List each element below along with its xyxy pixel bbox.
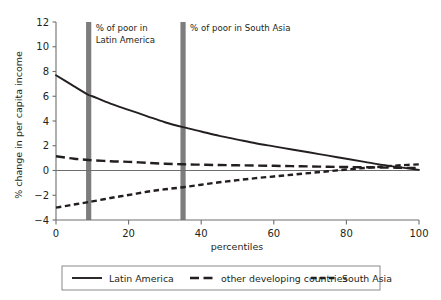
- marker-annotation-0-line-1: Latin America: [96, 35, 155, 45]
- y-axis-label: % change in per capita income: [13, 51, 24, 199]
- vertical-marker-bar-1: [180, 22, 185, 220]
- vertical-marker-bar-0: [86, 22, 91, 220]
- chart-figure: −4−2024681012020406080100% of poor inLat…: [0, 0, 441, 300]
- y-tick-label-6: 8: [43, 66, 49, 77]
- y-tick-label-1: −2: [34, 190, 49, 201]
- y-tick-label-5: 6: [43, 91, 49, 102]
- x-tick-label-0: 0: [53, 228, 59, 239]
- line-chart: −4−2024681012020406080100% of poor inLat…: [0, 0, 441, 300]
- y-tick-label-0: −4: [34, 215, 49, 226]
- x-tick-label-1: 20: [122, 228, 135, 239]
- chart-background: [0, 0, 441, 300]
- marker-annotation-1-line-0: % of poor in South Asia: [190, 23, 290, 33]
- x-axis-label: percentiles: [211, 241, 264, 252]
- y-tick-label-3: 2: [43, 140, 49, 151]
- y-tick-label-2: 0: [43, 165, 49, 176]
- x-tick-label-2: 40: [195, 228, 208, 239]
- x-tick-label-4: 80: [340, 228, 353, 239]
- y-tick-label-7: 10: [36, 41, 49, 52]
- y-tick-label-4: 4: [43, 116, 49, 127]
- x-tick-label-5: 100: [409, 228, 428, 239]
- marker-annotation-0-line-0: % of poor in: [96, 23, 148, 33]
- y-tick-label-8: 12: [36, 17, 49, 28]
- x-tick-label-3: 60: [267, 228, 280, 239]
